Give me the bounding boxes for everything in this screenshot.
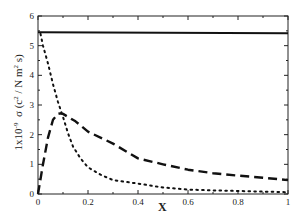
y-tick-label: 4 [30, 70, 35, 80]
x-tick-label: 0.6 [182, 197, 194, 207]
y-tick-label: 2 [30, 130, 35, 140]
x-tick-label: 0.2 [82, 197, 93, 207]
y-tick-label: 0 [30, 189, 35, 199]
y-axis-label: 1x10-9 σ (c2 / N m2 s) [12, 22, 25, 182]
series-dotted-line [41, 34, 289, 192]
y-tick-label: 6 [30, 11, 35, 21]
x-tick-label: 0 [36, 197, 41, 207]
y-tick-label: 5 [30, 41, 35, 51]
y-tick-label: 1 [30, 159, 35, 169]
x-tick-label: 0.8 [232, 197, 244, 207]
series-solid-line [38, 32, 288, 33]
y-tick-label: 3 [30, 100, 35, 110]
chart-plot: 00.20.40.60.810123456 [0, 0, 301, 222]
series-dashed-line [38, 113, 288, 194]
x-tick-label: 1 [286, 197, 291, 207]
x-tick-label: 0.4 [132, 197, 144, 207]
plot-frame [38, 16, 288, 194]
x-axis-label: X [158, 200, 167, 215]
